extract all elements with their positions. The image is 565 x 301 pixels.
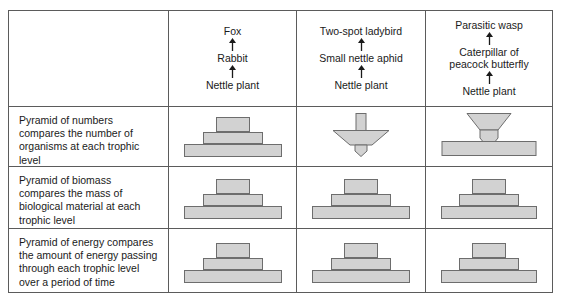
pyramid-tier-bottom (184, 206, 282, 219)
pyramid-tier-bottom (441, 270, 537, 283)
pyramid-tier-top (216, 117, 250, 132)
pyramid-tier-middle (203, 194, 263, 206)
upright-pyramid-diagram (441, 243, 537, 283)
food-chain-header-wasp: Parasitic wasp Caterpillar of peacock bu… (425, 11, 552, 106)
pyramid-tier-top (356, 114, 366, 131)
row-label-pyramid-of-biomass: Pyramid of biomass compares the mass of … (9, 166, 168, 228)
food-chain-level-top: Two-spot ladybird (320, 25, 402, 37)
food-chain-level-bottom: Nettle plant (462, 85, 515, 97)
pyramid-tier-bottom (442, 142, 536, 156)
pyramid-tier-middle (331, 194, 391, 206)
pyramid-tier-bottom (184, 270, 282, 283)
food-chain-level-top: Parasitic wasp (455, 19, 523, 31)
food-chain-level-middle: Rabbit (217, 52, 247, 64)
row-label-pyramid-of-numbers: Pyramid of numbers compares the number o… (9, 106, 168, 166)
table-corner-cell (9, 11, 168, 106)
food-chain-level-bottom: Nettle plant (334, 79, 387, 91)
food-chain-level-bottom: Nettle plant (206, 79, 259, 91)
pyramid-tier-bottom (355, 145, 367, 157)
pyramid-numbers-fox (168, 106, 296, 166)
pyramid-tier-bottom (441, 206, 537, 219)
pyramid-tier-top (472, 243, 506, 258)
arrow-up-icon (485, 71, 494, 84)
pyramid-tier-top (344, 179, 378, 194)
pyramid-energy-fox (168, 228, 296, 292)
pyramid-tier-middle (203, 258, 263, 270)
pyramid-tier-bottom (184, 144, 282, 157)
pyramid-tier-top (216, 243, 250, 258)
upright-pyramid-diagram (312, 243, 410, 283)
pyramid-numbers-wasp (425, 106, 552, 166)
food-chain-level-top: Fox (224, 25, 242, 37)
ecological-pyramids-table: Fox Rabbit Nettle plant Two-spot ladybir… (8, 10, 553, 293)
food-chain-header-ladybird: Two-spot ladybird Small nettle aphid Net… (296, 11, 425, 106)
pyramid-tier-top (344, 243, 378, 258)
pyramid-tier-top (472, 179, 506, 194)
pyramid-tier-middle (331, 258, 391, 270)
wide-top-pyramid-diagram (441, 113, 537, 157)
arrow-up-icon (228, 38, 237, 51)
arrow-up-icon (357, 65, 366, 78)
pyramid-tier-top (467, 114, 511, 131)
pyramid-tier-middle (203, 132, 263, 144)
pyramid-tier-middle (333, 131, 389, 146)
arrow-up-icon (357, 38, 366, 51)
arrow-up-icon (485, 32, 494, 45)
pyramid-biomass-wasp (425, 166, 552, 228)
inverted-pyramid-diagram (330, 113, 392, 157)
pyramid-biomass-fox (168, 166, 296, 228)
row-label-pyramid-of-energy: Pyramid of energy compares the amount of… (9, 228, 168, 292)
upright-pyramid-diagram (184, 117, 282, 157)
food-chain-header-fox: Fox Rabbit Nettle plant (168, 11, 296, 106)
pyramid-tier-bottom (312, 206, 410, 219)
pyramid-tier-middle (459, 258, 519, 270)
upright-pyramid-diagram (312, 179, 410, 219)
upright-pyramid-diagram (441, 179, 537, 219)
pyramid-tier-bottom (312, 270, 410, 283)
pyramid-tier-top (216, 179, 250, 194)
arrow-up-icon (228, 65, 237, 78)
upright-pyramid-diagram (184, 243, 282, 283)
pyramid-tier-middle (459, 194, 519, 206)
upright-pyramid-diagram (184, 179, 282, 219)
pyramid-energy-ladybird (296, 228, 425, 292)
pyramid-biomass-ladybird (296, 166, 425, 228)
pyramid-energy-wasp (425, 228, 552, 292)
food-chain-level-middle: Caterpillar of peacock butterfly (449, 46, 528, 70)
pyramid-numbers-ladybird (296, 106, 425, 166)
food-chain-level-middle: Small nettle aphid (319, 52, 402, 64)
